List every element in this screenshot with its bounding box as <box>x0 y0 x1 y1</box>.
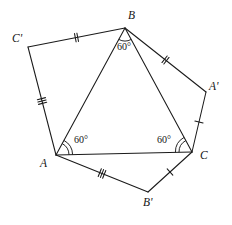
geometry-figure: 60°60°60° ABCA'B'C' <box>0 0 232 225</box>
edge-A-C <box>56 152 192 155</box>
angle-at-B-label: 60° <box>117 41 131 52</box>
edge-C-prime-B <box>28 28 125 47</box>
vertex-label-b-prime: B' <box>143 196 153 208</box>
angle-at-C-arc <box>179 141 186 153</box>
angle-at-C-arc <box>175 137 184 152</box>
vertex-label-a: A <box>39 157 48 169</box>
figure-canvas: 60°60°60° ABCA'B'C' <box>0 0 232 225</box>
vertex-label-a-prime: A' <box>208 80 219 92</box>
vertex-labels-group: ABCA'B'C' <box>12 9 219 208</box>
edge-B-A-prime <box>125 28 206 92</box>
edges-group <box>28 28 206 192</box>
vertex-label-c: C <box>200 149 208 161</box>
angle-at-A-label: 60° <box>74 134 88 145</box>
tick-marks-group <box>37 33 203 178</box>
angle-at-A-arc <box>64 140 73 154</box>
edge-A-B <box>56 28 125 155</box>
angle-at-A-arc <box>62 144 69 155</box>
vertex-label-c-prime: C' <box>12 32 23 44</box>
angle-labels-group: 60°60°60° <box>74 41 171 145</box>
vertex-label-b: B <box>128 9 135 21</box>
angle-at-C-label: 60° <box>157 134 171 145</box>
